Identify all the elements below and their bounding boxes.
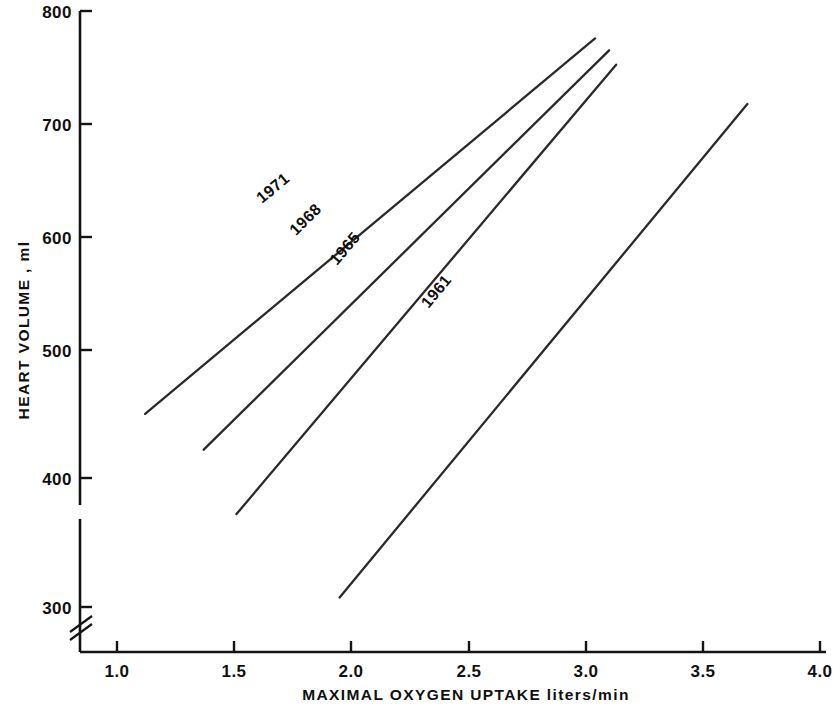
x-axis-ticks (117, 641, 820, 652)
series-line-1961 (340, 104, 748, 597)
x-tick-label-3-5: 3.5 (690, 662, 715, 681)
series-label-1968: 1968 (286, 200, 324, 238)
x-tick-label-1-0: 1.0 (104, 662, 129, 681)
series-label-group: 1971 1968 1965 1961 (253, 170, 455, 311)
y-tick-label-700: 700 (42, 116, 72, 135)
y-tick-label-400: 400 (42, 470, 72, 489)
x-tick-label-1-5: 1.5 (221, 662, 246, 681)
series-label-1965: 1965 (326, 229, 363, 268)
series-label-1971: 1971 (253, 170, 292, 207)
series-line-1968 (204, 50, 609, 449)
y-axis-ticks (80, 11, 92, 607)
y-axis-title: HEART VOLUME , ml (15, 241, 32, 420)
data-series-group (145, 38, 747, 597)
x-axis-title: MAXIMAL OXYGEN UPTAKE liters/min (302, 686, 630, 703)
heart-volume-vs-oxygen-uptake-chart: 800 700 600 500 400 300 1.0 1.5 2.0 2.5 … (0, 0, 833, 718)
y-tick-label-500: 500 (42, 342, 72, 361)
y-tick-label-800: 800 (42, 3, 72, 22)
y-tick-label-300: 300 (42, 599, 72, 618)
x-tick-label-2-0: 2.0 (338, 662, 363, 681)
y-tick-label-600: 600 (42, 229, 72, 248)
x-tick-label-2-5: 2.5 (456, 662, 481, 681)
x-tick-label-4-0: 4.0 (807, 662, 832, 681)
x-tick-label-3-0: 3.0 (573, 662, 598, 681)
